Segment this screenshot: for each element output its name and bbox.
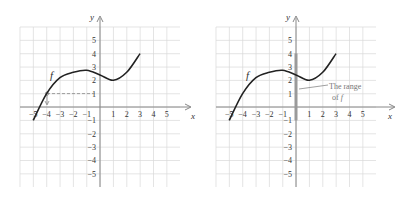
x-axis-label: x <box>387 111 392 121</box>
y-tick-label: −3 <box>87 143 96 152</box>
left-graph-svg: x y −5−4−3−2−11234554321−1−2−3−4−5 f <box>0 0 204 198</box>
x-tick-label: −2 <box>265 110 274 119</box>
x-tick-label: 1 <box>111 110 115 119</box>
y-axis-label: y <box>89 12 94 22</box>
y-tick-label: −5 <box>87 170 96 179</box>
x-tick-label: 2 <box>321 110 325 119</box>
function-label: f <box>50 69 55 81</box>
function-label: f <box>246 69 251 81</box>
x-axis-label: x <box>190 111 195 121</box>
y-tick-label: −5 <box>283 170 292 179</box>
y-tick-label: 3 <box>288 63 292 72</box>
y-tick-label: 5 <box>92 36 96 45</box>
x-tick-label: 4 <box>151 110 155 119</box>
y-tick-label: 3 <box>92 63 96 72</box>
y-tick-label: 1 <box>288 90 292 99</box>
y-tick-label: −1 <box>283 116 292 125</box>
x-tick-label: 2 <box>125 110 129 119</box>
right-graph-panel: x y −5−4−3−2−11234554321−1−2−3−4−5 f The… <box>204 0 408 198</box>
y-tick-label: 2 <box>288 76 292 85</box>
x-tick-label: 5 <box>361 110 365 119</box>
x-tick-label: 3 <box>334 110 338 119</box>
y-tick-label: 4 <box>288 50 292 59</box>
range-label-line2: of f <box>332 93 345 102</box>
range-label-of: of <box>332 93 341 102</box>
x-tick-label: 5 <box>165 110 169 119</box>
y-tick-label: −2 <box>283 130 292 139</box>
x-tick-label: −4 <box>238 110 247 119</box>
y-tick-label: 5 <box>288 36 292 45</box>
x-tick-label: 4 <box>347 110 351 119</box>
y-tick-label: −3 <box>283 143 292 152</box>
left-graph-panel: x y −5−4−3−2−11234554321−1−2−3−4−5 f <box>0 0 204 198</box>
range-highlight-bar <box>295 53 298 120</box>
y-axis-label: y <box>285 12 290 22</box>
x-tick-label: −3 <box>252 110 261 119</box>
x-tick-label: −2 <box>69 110 78 119</box>
x-tick-label: 1 <box>307 110 311 119</box>
x-tick-label: −4 <box>42 110 51 119</box>
y-tick-label: 2 <box>92 76 96 85</box>
right-graph-svg: x y −5−4−3−2−11234554321−1−2−3−4−5 f The… <box>204 0 408 198</box>
y-tick-label: −4 <box>283 156 292 165</box>
y-tick-label: −2 <box>87 130 96 139</box>
x-tick-label: 3 <box>138 110 142 119</box>
range-label-func: f <box>341 93 345 102</box>
range-callout-line <box>299 85 328 89</box>
y-tick-label: −1 <box>87 116 96 125</box>
range-label-line1: The range <box>329 82 362 91</box>
x-tick-label: −3 <box>56 110 65 119</box>
y-tick-label: 1 <box>92 90 96 99</box>
y-tick-label: −4 <box>87 156 96 165</box>
y-tick-label: 4 <box>92 50 96 59</box>
